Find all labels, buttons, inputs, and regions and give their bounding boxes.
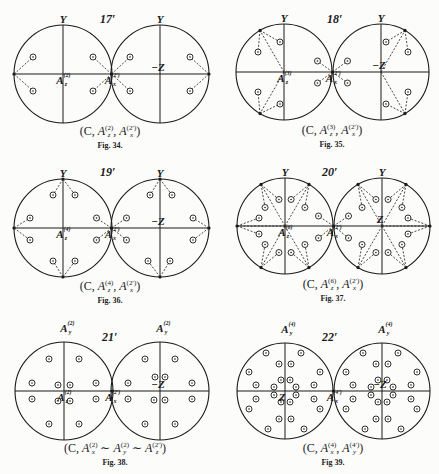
pole-dot bbox=[278, 252, 280, 254]
pole-dot bbox=[387, 252, 389, 254]
pole-dot bbox=[375, 199, 377, 201]
label-left-center: Z bbox=[278, 391, 286, 403]
axis-dot bbox=[428, 224, 431, 227]
pole-dot bbox=[95, 382, 97, 384]
pole-dot bbox=[191, 398, 193, 400]
label-right-top: A bbox=[377, 323, 385, 335]
pole-dot bbox=[95, 398, 97, 400]
pole-dot bbox=[144, 358, 146, 360]
pole-dot bbox=[127, 398, 129, 400]
pole-dot bbox=[410, 384, 412, 386]
label-junction-sup: (2′) bbox=[111, 226, 120, 233]
dashed-connector bbox=[358, 253, 376, 268]
pole-dot bbox=[153, 399, 155, 401]
pole-dot bbox=[392, 394, 394, 396]
figure-number-36: 19′ bbox=[100, 165, 115, 180]
pole-dot bbox=[126, 239, 128, 241]
pole-dot bbox=[31, 382, 33, 384]
label-right-top-sup: (4) bbox=[386, 321, 393, 328]
label-right-top: Y bbox=[379, 166, 387, 178]
pole-dot bbox=[377, 401, 379, 403]
pole-dot bbox=[295, 394, 297, 396]
pole-dot bbox=[319, 371, 321, 373]
label-left-top: Y bbox=[281, 12, 289, 24]
pole-dot bbox=[192, 239, 194, 241]
label-left-top: A bbox=[59, 322, 67, 334]
label-junction-sub: x bbox=[334, 233, 338, 239]
pole-dot bbox=[392, 386, 394, 388]
pole-dot bbox=[416, 371, 418, 373]
dashed-connector bbox=[14, 57, 33, 74]
label-left-center: A bbox=[276, 72, 284, 84]
pole-dot bbox=[92, 56, 94, 58]
figures-canvas: YYAz(2)−ZAx(2′)YYAz(3)−ZAx(2′)YYAz(4)−ZA… bbox=[0, 0, 439, 474]
figure-number-38: 21′ bbox=[102, 330, 117, 345]
axis-dot bbox=[356, 183, 359, 186]
pole-dot bbox=[267, 428, 269, 430]
label-left-center: A bbox=[277, 226, 285, 238]
label-junction-sup: (4′) bbox=[333, 389, 342, 396]
axis-dot bbox=[307, 183, 310, 186]
pole-dot bbox=[248, 408, 250, 410]
pole-dot bbox=[362, 352, 364, 354]
label-junction-sub: x bbox=[113, 398, 117, 404]
pole-dot bbox=[126, 217, 128, 219]
pole-dot bbox=[92, 90, 94, 92]
pole-dot bbox=[290, 199, 292, 201]
pole-dot bbox=[96, 239, 98, 241]
figure-number-34: 17′ bbox=[100, 12, 115, 27]
pole-dot bbox=[295, 386, 297, 388]
dashed-connector bbox=[190, 57, 209, 74]
fig-label-37: Fig. 37. bbox=[263, 294, 403, 303]
label-left-top: Y bbox=[282, 166, 290, 178]
label-left-center-sup: (4) bbox=[64, 226, 71, 233]
pole-dot bbox=[348, 237, 350, 239]
pole-dot bbox=[416, 408, 418, 410]
dashed-connector bbox=[260, 30, 284, 72]
dashed-connector bbox=[388, 253, 406, 268]
dashed-connector bbox=[358, 184, 376, 199]
label-left-center: A bbox=[55, 74, 63, 86]
label-junction-sup: (2′) bbox=[333, 224, 342, 231]
pole-dot bbox=[410, 398, 412, 400]
fig-label-38: Fig. 38. bbox=[20, 458, 210, 467]
label-right-top-sub: y bbox=[386, 330, 390, 336]
axis-dot bbox=[207, 226, 210, 229]
pole-dot bbox=[313, 384, 315, 386]
pole-dot bbox=[304, 207, 306, 209]
pole-dot bbox=[345, 371, 347, 373]
label-junction-sup: (2′) bbox=[111, 72, 120, 79]
pole-dot bbox=[258, 233, 260, 235]
label-left-top: Y bbox=[60, 167, 68, 179]
pole-dot bbox=[32, 56, 34, 58]
pole-dot bbox=[387, 363, 389, 365]
dashed-connector bbox=[93, 57, 112, 74]
label-left-center-sub: z bbox=[64, 235, 68, 241]
pole-dot bbox=[273, 386, 275, 388]
label-left-center-sup: (2) bbox=[65, 389, 72, 396]
pole-dot bbox=[361, 207, 363, 209]
label-right-center: −Z bbox=[151, 61, 165, 73]
axis-dot bbox=[404, 183, 407, 186]
fig-label-34: Fig. 34. bbox=[40, 141, 180, 150]
pole-dot bbox=[264, 207, 266, 209]
pole-dot bbox=[375, 418, 377, 420]
pole-dot bbox=[397, 352, 399, 354]
figure-number-37: 20′ bbox=[322, 165, 337, 180]
pole-dot bbox=[385, 41, 387, 43]
label-right-center: −Z bbox=[373, 378, 387, 390]
pole-dot bbox=[407, 91, 409, 93]
fig-label-39: Fig 39. bbox=[263, 458, 403, 467]
pole-dot bbox=[147, 260, 149, 262]
label-left-top-sub: y bbox=[289, 330, 293, 336]
pole-dot bbox=[78, 423, 80, 425]
pole-dot bbox=[69, 400, 71, 402]
pole-dot bbox=[387, 199, 389, 201]
pole-dot bbox=[352, 384, 354, 386]
pole-dot bbox=[290, 252, 292, 254]
pole-dot bbox=[192, 217, 194, 219]
dashed-connector bbox=[190, 74, 209, 91]
pole-dot bbox=[52, 260, 54, 262]
caption-fig35: (C, A(3)z, A(2′)x) bbox=[262, 123, 402, 138]
dashed-connector bbox=[381, 72, 405, 114]
